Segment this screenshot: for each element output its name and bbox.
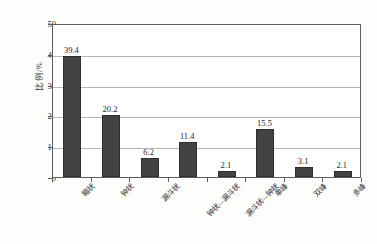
bar [102, 115, 120, 177]
bar [218, 171, 236, 177]
x-axis-category-label: 漏斗状 [161, 183, 181, 203]
gridline [53, 56, 360, 57]
bar [334, 171, 352, 177]
x-axis-category-label: 双峰 [313, 183, 328, 198]
gridline [53, 117, 360, 118]
bar [179, 142, 197, 177]
x-axis-tick-mark [168, 178, 169, 182]
x-axis-category-label: 多峰 [352, 183, 367, 198]
bar-value-label: 2.1 [206, 161, 246, 170]
bar-value-label: 15.5 [244, 119, 284, 128]
x-axis-tick-mark [322, 178, 323, 182]
bar-value-label: 6.2 [129, 148, 169, 157]
x-axis-category-label: 钟状 [120, 183, 135, 198]
x-axis-tick-mark [207, 178, 208, 182]
bar-value-label: 39.4 [51, 46, 91, 55]
bar [141, 158, 159, 177]
x-axis-category-label: 漏斗状—钟状 [244, 183, 279, 218]
bar-chart-figure: 比例/% 01020304050 39.420.26.211.42.115.53… [0, 0, 377, 244]
gridline [53, 87, 360, 88]
bar-value-label: 11.4 [167, 132, 207, 141]
plot-area [52, 24, 361, 178]
bar [256, 129, 274, 177]
x-axis-category-label: 钟状—漏斗状 [206, 183, 241, 218]
x-axis-tick-mark [245, 178, 246, 182]
x-axis-tick-mark [284, 178, 285, 182]
bar [63, 56, 81, 177]
gridline [53, 148, 360, 149]
x-axis-category-label: 箱状 [81, 183, 96, 198]
bar-value-label: 20.2 [90, 105, 130, 114]
x-axis-tick-mark [52, 178, 53, 182]
bar [295, 167, 313, 177]
bar-value-label: 2.1 [322, 161, 362, 170]
x-axis-tick-mark [91, 178, 92, 182]
bar-value-label: 3.1 [283, 157, 323, 166]
x-axis-tick-mark [129, 178, 130, 182]
